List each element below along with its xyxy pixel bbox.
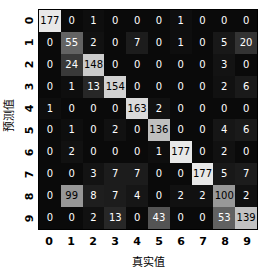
- confusion-matrix-figure: 预测值 0123456789 1770100010000552070105200…: [0, 0, 274, 278]
- matrix-cell-value: 0: [156, 82, 162, 92]
- matrix-cell: 0: [213, 98, 235, 120]
- matrix-cell-value: 0: [134, 125, 140, 135]
- matrix-cell: 2: [213, 76, 235, 98]
- matrix-cell-value: 177: [40, 16, 59, 26]
- matrix-cell-value: 0: [199, 38, 205, 48]
- matrix-cell: 0: [148, 54, 170, 76]
- matrix-cell-value: 1: [47, 104, 53, 114]
- matrix-cell: 177: [39, 10, 61, 32]
- matrix-cell: 1: [61, 76, 83, 98]
- matrix-cell-value: 0: [47, 38, 53, 48]
- x-axis-tick-labels: 0123456789: [38, 233, 258, 249]
- matrix-cell: 0: [39, 119, 61, 141]
- y-tick-label: 8: [22, 186, 38, 208]
- matrix-cell-value: 0: [69, 213, 75, 223]
- matrix-cell-value: 0: [156, 60, 162, 70]
- matrix-cell: 0: [126, 141, 148, 163]
- matrix-cell-value: 53: [218, 213, 231, 223]
- matrix-cell-value: 3: [221, 60, 227, 70]
- x-tick-label: 1: [60, 233, 82, 249]
- matrix-cell-value: 0: [90, 104, 96, 114]
- matrix-cell-value: 0: [156, 191, 162, 201]
- matrix-cell: 1: [170, 32, 192, 54]
- matrix-cell-value: 0: [112, 104, 118, 114]
- matrix-cell: 0: [192, 98, 214, 120]
- matrix-cell-value: 0: [134, 147, 140, 157]
- x-tick-label: 2: [82, 233, 104, 249]
- matrix-cell: 0: [61, 10, 83, 32]
- matrix-cell-value: 0: [199, 147, 205, 157]
- matrix-cell-value: 0: [69, 16, 75, 26]
- matrix-cell: 0: [61, 98, 83, 120]
- matrix-cell-value: 139: [237, 213, 256, 223]
- matrix-cell-value: 7: [112, 191, 118, 201]
- matrix-cell: 177: [170, 141, 192, 163]
- y-tick-label-text: 0: [25, 16, 36, 24]
- matrix-cell-value: 0: [221, 104, 227, 114]
- matrix-cell: 7: [104, 163, 126, 185]
- matrix-cell-value: 0: [156, 16, 162, 26]
- matrix-cell: 0: [126, 207, 148, 229]
- matrix-cell: 2: [61, 141, 83, 163]
- matrix-cell: 0: [83, 119, 105, 141]
- matrix-cell: 154: [104, 76, 126, 98]
- matrix-cell-value: 0: [178, 125, 184, 135]
- matrix-cell: 0: [235, 10, 257, 32]
- y-tick-label: 3: [22, 75, 38, 97]
- matrix-cell-value: 6: [243, 82, 249, 92]
- y-tick-label: 6: [22, 142, 38, 164]
- matrix-cell-value: 0: [134, 213, 140, 223]
- matrix-cell-value: 0: [112, 147, 118, 157]
- matrix-cell: 0: [83, 98, 105, 120]
- matrix-cell: 0: [192, 32, 214, 54]
- matrix-cell: 0: [192, 76, 214, 98]
- matrix-cell: 2: [192, 185, 214, 207]
- matrix-cell-value: 0: [178, 60, 184, 70]
- matrix-cell: 0: [192, 141, 214, 163]
- matrix-cell-value: 2: [243, 191, 249, 201]
- y-tick-label-text: 8: [25, 193, 36, 201]
- matrix-cell: 163: [126, 98, 148, 120]
- matrix-cell-value: 0: [199, 125, 205, 135]
- matrix-cell-value: 4: [134, 191, 140, 201]
- matrix-cell: 148: [83, 54, 105, 76]
- matrix-cell-value: 0: [47, 213, 53, 223]
- matrix-cell: 0: [39, 185, 61, 207]
- x-tick-label: 0: [38, 233, 60, 249]
- matrix-cell: 0: [170, 98, 192, 120]
- matrix-cell: 3: [213, 54, 235, 76]
- matrix-cell: 0: [192, 119, 214, 141]
- matrix-cell-value: 7: [243, 169, 249, 179]
- matrix-cell-value: 163: [128, 104, 147, 114]
- matrix-cell-value: 2: [178, 191, 184, 201]
- matrix-cell: 0: [192, 207, 214, 229]
- matrix-cell: 0: [104, 10, 126, 32]
- matrix-cell-value: 24: [65, 60, 78, 70]
- matrix-cell: 7: [126, 163, 148, 185]
- matrix-cell: 0: [61, 163, 83, 185]
- matrix-cell-value: 148: [84, 60, 103, 70]
- y-tick-label-text: 6: [25, 149, 36, 157]
- matrix-cell-value: 5: [221, 169, 227, 179]
- y-tick-label: 5: [22, 119, 38, 141]
- matrix-cell-value: 3: [90, 169, 96, 179]
- matrix-cell: 136: [148, 119, 170, 141]
- matrix-cell: 0: [170, 207, 192, 229]
- matrix-cell: 139: [235, 207, 257, 229]
- matrix-cell: 4: [126, 185, 148, 207]
- matrix-cell-value: 0: [199, 104, 205, 114]
- matrix-cell: 8: [83, 185, 105, 207]
- matrix-cell-value: 0: [134, 82, 140, 92]
- matrix-cell-value: 177: [193, 169, 212, 179]
- matrix-cell: 0: [170, 119, 192, 141]
- matrix-cell: 1: [61, 119, 83, 141]
- matrix-cell: 177: [192, 163, 214, 185]
- matrix-cell: 43: [148, 207, 170, 229]
- matrix-cell-value: 0: [178, 213, 184, 223]
- y-tick-label-text: 3: [25, 83, 36, 91]
- matrix-cell: 0: [104, 54, 126, 76]
- matrix-cell-value: 0: [243, 60, 249, 70]
- matrix-cell-value: 0: [199, 60, 205, 70]
- matrix-cell: 0: [192, 54, 214, 76]
- matrix-cell: 0: [126, 54, 148, 76]
